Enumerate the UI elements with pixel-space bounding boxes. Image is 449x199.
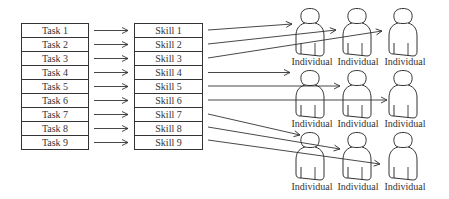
skill-label: Skill 5 xyxy=(155,81,181,92)
individual-label: Individual xyxy=(337,56,378,67)
individual-label: Individual xyxy=(337,181,378,192)
task-row-7: Task 7 xyxy=(22,108,89,122)
task-row-3: Task 3 xyxy=(22,52,89,66)
task-label: Task 9 xyxy=(42,137,68,148)
skill-row-1: Skill 1 xyxy=(135,24,203,38)
arrow-icon xyxy=(208,24,292,30)
task-label: Task 4 xyxy=(42,67,68,78)
person-icon xyxy=(343,133,371,181)
skill-label: Skill 4 xyxy=(155,67,181,78)
task-to-skill-arrows xyxy=(94,31,128,143)
person-icon xyxy=(343,9,371,57)
person-icon xyxy=(389,9,417,57)
skill-label: Skill 1 xyxy=(155,25,181,36)
individual-6: Individual xyxy=(384,71,425,130)
individual-3: Individual xyxy=(384,9,425,68)
individual-2: Individual xyxy=(337,9,378,68)
person-icon xyxy=(389,71,417,119)
task-label: Task 7 xyxy=(42,109,68,120)
task-row-9: Task 9 xyxy=(22,136,89,150)
skill-label: Skill 7 xyxy=(155,109,181,120)
skill-label: Skill 3 xyxy=(155,53,181,64)
arrow-icon xyxy=(208,127,340,149)
task-label: Task 8 xyxy=(42,123,68,134)
person-icon xyxy=(343,71,371,119)
skill-row-2: Skill 2 xyxy=(135,38,203,52)
skill-label: Skill 2 xyxy=(155,39,181,50)
individual-label: Individual xyxy=(291,56,332,67)
skill-row-8: Skill 8 xyxy=(135,122,203,136)
task-row-2: Task 2 xyxy=(22,38,89,52)
task-label: Task 1 xyxy=(42,25,68,36)
skill-label: Skill 9 xyxy=(155,137,181,148)
task-label: Task 5 xyxy=(42,81,68,92)
individual-label: Individual xyxy=(384,181,425,192)
task-label: Task 6 xyxy=(42,95,68,106)
skill-row-4: Skill 4 xyxy=(135,66,203,80)
task-label: Task 2 xyxy=(42,39,68,50)
individual-label: Individual xyxy=(384,56,425,67)
individual-label: Individual xyxy=(291,118,332,129)
individual-8: Individual xyxy=(337,133,378,193)
task-row-8: Task 8 xyxy=(22,122,89,136)
person-icon xyxy=(296,133,324,181)
person-icon xyxy=(296,71,324,119)
task-row-1: Task 1 xyxy=(22,24,89,38)
skill-row-9: Skill 9 xyxy=(135,136,203,150)
skill-row-3: Skill 3 xyxy=(135,52,203,66)
task-row-5: Task 5 xyxy=(22,80,89,94)
skill-row-5: Skill 5 xyxy=(135,80,203,94)
task-row-4: Task 4 xyxy=(22,66,89,80)
arrow-icon xyxy=(208,114,300,135)
skill-row-6: Skill 6 xyxy=(135,94,203,108)
task-label: Task 3 xyxy=(42,53,68,64)
person-icon xyxy=(389,133,417,181)
skill-column: Skill 1 Skill 2 Skill 3 Skill 4 Skill 5 … xyxy=(135,24,203,150)
individual-label: Individual xyxy=(384,118,425,129)
individual-label: Individual xyxy=(291,181,332,192)
task-column: Task 1 Task 2 Task 3 Task 4 Task 5 Task … xyxy=(22,24,89,150)
task-skill-individual-diagram: Task 1 Task 2 Task 3 Task 4 Task 5 Task … xyxy=(0,0,449,199)
task-row-6: Task 6 xyxy=(22,94,89,108)
individual-label: Individual xyxy=(337,118,378,129)
individual-7: Individual xyxy=(291,133,332,193)
skill-label: Skill 6 xyxy=(155,95,181,106)
skill-label: Skill 8 xyxy=(155,123,181,134)
person-icon xyxy=(296,9,324,57)
skill-row-7: Skill 7 xyxy=(135,108,203,122)
individual-1: Individual xyxy=(291,9,332,68)
individual-9: Individual xyxy=(384,133,425,193)
